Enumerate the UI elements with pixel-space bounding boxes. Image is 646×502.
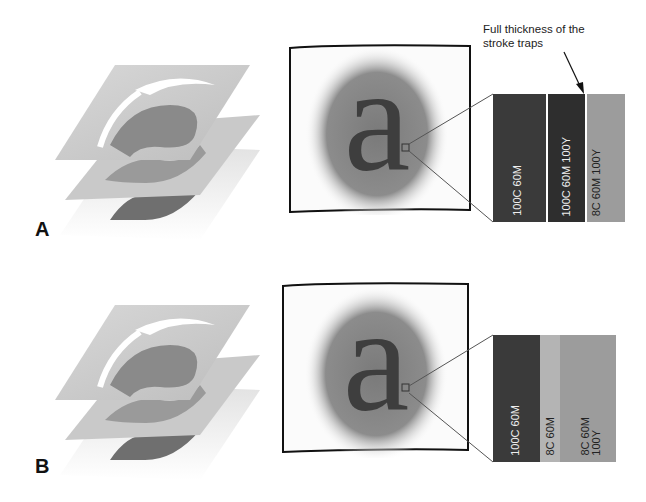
trap-swatch-b: 100C 60M 8C 60M 8C 60M 100Y bbox=[493, 335, 616, 462]
swatch-b-col-3: 8C 60M 100Y bbox=[560, 335, 616, 462]
swatch-b-col-1: 100C 60M bbox=[493, 335, 540, 462]
swatch-b-col-2: 8C 60M bbox=[540, 335, 560, 462]
